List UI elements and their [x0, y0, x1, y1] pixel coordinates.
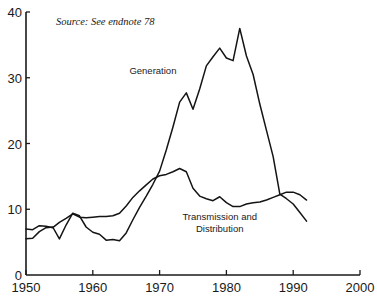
- x-axis-tick-label: 1960: [78, 280, 107, 295]
- chart-container: 010203040195019601970198019902000Source:…: [0, 0, 377, 302]
- x-axis-tick-label: 1950: [12, 280, 41, 295]
- transmission-label-line1: Transmission and: [182, 211, 257, 222]
- y-axis-tick-label: 20: [8, 137, 22, 152]
- source-note: Source: See endnote 78: [56, 16, 155, 27]
- line-chart: 010203040195019601970198019902000Source:…: [0, 0, 377, 302]
- generation-label: Generation: [129, 65, 176, 76]
- x-axis-tick-label: 2000: [346, 280, 375, 295]
- series-line-generation: [26, 28, 307, 240]
- x-axis-tick-label: 1990: [279, 280, 308, 295]
- x-axis-tick-label: 1980: [212, 280, 241, 295]
- y-axis-tick-label: 40: [8, 5, 22, 20]
- transmission-label-line2: Distribution: [196, 223, 244, 234]
- y-axis-tick-label: 30: [8, 71, 22, 86]
- y-axis-tick-label: 10: [8, 202, 22, 217]
- x-axis-tick-label: 1970: [145, 280, 174, 295]
